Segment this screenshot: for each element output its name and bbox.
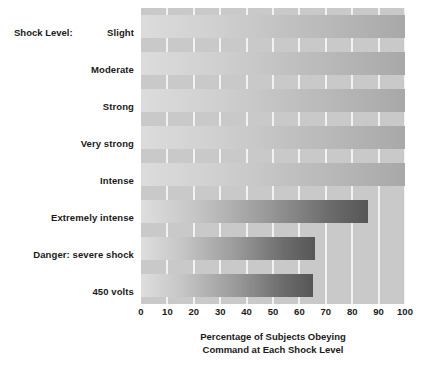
x-tick-label-80: 80: [347, 306, 358, 317]
bar-row: [141, 163, 405, 186]
x-tick-label-20: 20: [189, 306, 200, 317]
x-tick-label-10: 10: [162, 306, 173, 317]
bar-row: [141, 200, 405, 223]
bar-moderate: [141, 52, 405, 75]
x-tick-label-30: 30: [215, 306, 226, 317]
x-tick-label-0: 0: [138, 306, 143, 317]
x-tick-label-60: 60: [294, 306, 305, 317]
bar-chart: Shock Level: Slight Moderate Strong Very…: [0, 0, 425, 379]
bar-very-strong: [141, 126, 405, 149]
bar-slight: [141, 15, 405, 38]
bar-row: [141, 274, 405, 297]
x-axis-title-line1: Percentage of Subjects Obeying: [141, 330, 405, 343]
category-label-very-strong: Very strong: [81, 138, 134, 149]
category-label-strong: Strong: [103, 101, 134, 112]
bar-row: [141, 89, 405, 112]
bar-strong: [141, 89, 405, 112]
category-axis-labels: Shock Level: Slight Moderate Strong Very…: [0, 0, 136, 304]
bar-row: [141, 52, 405, 75]
bar-extremely-intense: [141, 200, 368, 223]
x-tick-label-70: 70: [321, 306, 332, 317]
bar-danger-severe-shock: [141, 237, 315, 260]
category-label-moderate: Moderate: [91, 64, 134, 75]
x-tick-label-40: 40: [241, 306, 252, 317]
bar-row: [141, 237, 405, 260]
bar-450-volts: [141, 274, 313, 297]
category-label-danger-severe-shock: Danger: severe shock: [33, 249, 134, 260]
x-tick-label-50: 50: [268, 306, 279, 317]
y-axis-title: Shock Level:: [14, 27, 73, 38]
category-label-slight: Slight: [107, 27, 134, 38]
plot-area: [141, 8, 405, 304]
bar-row: [141, 126, 405, 149]
x-axis: 0102030405060708090100: [141, 306, 405, 322]
category-label-450-volts: 450 volts: [92, 286, 134, 297]
bar-intense: [141, 163, 405, 186]
category-label-intense: Intense: [100, 175, 134, 186]
x-tick-label-100: 100: [397, 306, 413, 317]
category-label-extremely-intense: Extremely intense: [51, 212, 134, 223]
x-axis-title-line2: Command at Each Shock Level: [141, 343, 405, 356]
bar-row: [141, 15, 405, 38]
x-tick-label-90: 90: [373, 306, 384, 317]
x-axis-title: Percentage of Subjects Obeying Command a…: [141, 330, 405, 356]
